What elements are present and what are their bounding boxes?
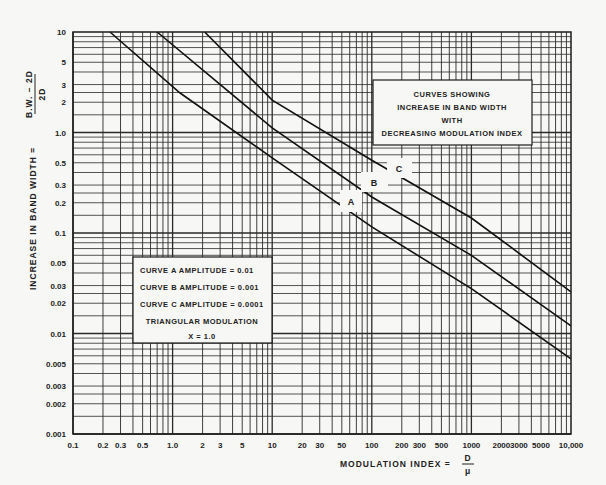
title-line-2: INCREASE IN BAND WIDTH (397, 103, 507, 112)
svg-text:INCREASE IN BAND WIDTH =: INCREASE IN BAND WIDTH = (28, 147, 38, 290)
x-tick-label: 50 (337, 441, 346, 450)
x-tick-label: 5000 (532, 441, 550, 450)
x-tick-labels: 0.10.20.30.51.02351020305010020030050010… (67, 441, 583, 450)
x-tick-label: 3 (218, 441, 223, 450)
svg-text:B.W. − 2D: B.W. − 2D (24, 70, 34, 118)
y-tick-label: 0.03 (50, 282, 66, 291)
y-tick-label: 0.05 (50, 259, 66, 268)
x-tick-label: 200 (395, 441, 409, 450)
title-box: CURVES SHOWING INCREASE IN BAND WIDTH WI… (373, 80, 532, 145)
y-tick-label: 3 (62, 81, 67, 90)
y-tick-label: 10 (57, 28, 66, 37)
y-tick-label: 0.002 (46, 400, 67, 409)
y-tick-label: 0.02 (50, 299, 66, 308)
x-tick-label: 2000 (492, 441, 510, 450)
svg-text:2D: 2D (37, 88, 47, 101)
x-tick-label: 0.1 (67, 441, 79, 450)
svg-text:μ: μ (465, 466, 471, 476)
svg-text:C: C (396, 164, 403, 174)
y-tick-label: 0.5 (55, 159, 67, 168)
svg-text:D: D (464, 453, 471, 463)
legend-item-b: CURVE B AMPLITUDE = 0.001 (140, 283, 259, 292)
x-tick-label: 30 (315, 441, 324, 450)
y-tick-label: 1.0 (55, 129, 67, 138)
y-tick-labels: 105321.00.50.30.20.10.050.030.020.010.00… (46, 28, 67, 439)
x-tick-label: 1000 (463, 441, 481, 450)
title-line-1: CURVES SHOWING (414, 90, 491, 99)
x-tick-label: 100 (365, 441, 379, 450)
x-axis-title: MODULATION INDEX = D μ (340, 453, 474, 476)
y-tick-label: 0.003 (46, 382, 67, 391)
x-tick-label: 10 (268, 441, 277, 450)
y-axis-title: INCREASE IN BAND WIDTH = B.W. − 2D 2D (24, 70, 47, 290)
x-tick-label: 500 (435, 441, 449, 450)
band-width-chart: 0.10.20.30.51.02351020305010020030050010… (0, 0, 606, 485)
y-tick-label: 0.005 (46, 360, 67, 369)
y-tick-label: 0.01 (50, 330, 66, 339)
legend-box: CURVE A AMPLITUDE = 0.01 CURVE B AMPLITU… (133, 257, 272, 343)
x-tick-label: 10,000 (559, 441, 584, 450)
legend-x-value: X = 1.0 (188, 332, 215, 341)
y-tick-label: 0.1 (55, 229, 67, 238)
y-tick-label: 0.2 (55, 199, 67, 208)
x-tick-label: 0.5 (137, 441, 149, 450)
svg-text:B: B (371, 178, 378, 188)
x-tick-label: 0.3 (115, 441, 127, 450)
title-line-3: WITH (441, 116, 462, 125)
x-tick-label: 300 (413, 441, 427, 450)
x-tick-label: 0.2 (97, 441, 109, 450)
y-tick-label: 5 (62, 58, 67, 67)
x-tick-label: 20 (298, 441, 307, 450)
x-tick-label: 1.0 (167, 441, 179, 450)
title-line-4: DECREASING MODULATION INDEX (382, 129, 523, 138)
y-tick-label: 0.001 (46, 430, 67, 439)
x-tick-label: 2 (200, 441, 205, 450)
x-tick-label: 3000 (510, 441, 528, 450)
y-tick-label: 2 (62, 98, 67, 107)
legend-item-c: CURVE C AMPLITUDE = 0.0001 (140, 300, 264, 309)
y-tick-label: 0.3 (55, 181, 67, 190)
svg-text:A: A (348, 197, 355, 207)
legend-modulation: TRIANGULAR MODULATION (146, 317, 258, 326)
x-tick-label: 5 (240, 441, 245, 450)
curve-tag-c: C (387, 158, 412, 178)
curve-tag-a: A (340, 190, 362, 212)
svg-text:MODULATION INDEX =: MODULATION INDEX = (340, 459, 451, 469)
legend-item-a: CURVE A AMPLITUDE = 0.01 (140, 266, 254, 275)
curve-tag-b: B (361, 172, 388, 192)
